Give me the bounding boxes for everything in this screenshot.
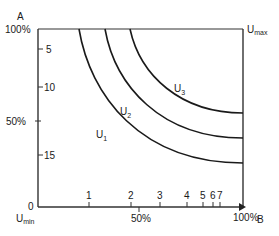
x-tick-label-7: 7 — [217, 190, 223, 201]
x-tick-label-4: 4 — [184, 190, 190, 201]
x-mid-label: 50% — [131, 213, 151, 224]
u1-label: U1 — [96, 129, 107, 142]
curve-u1 — [79, 29, 243, 163]
x-tick-label-6: 6 — [210, 190, 216, 201]
y-tick-label-5: 5 — [46, 44, 52, 55]
y-zero-label: 0 — [28, 201, 34, 212]
x-axis-label: B — [257, 214, 264, 225]
x-right-label: 100% — [233, 212, 259, 223]
curve-u3 — [130, 29, 243, 113]
indifference-diagram: A 100% 5 10 50% 15 0 1 2 3 4 5 6 7 50% 1… — [0, 0, 279, 236]
y-axis-label: A — [17, 11, 24, 22]
u-min-label: Umin — [16, 213, 35, 225]
x-tick-label-3: 3 — [157, 190, 163, 201]
u-max-label: Umax — [247, 24, 268, 36]
y-mid-label: 50% — [6, 116, 26, 127]
x-tick-label-5: 5 — [200, 190, 206, 201]
x-tick-label-1: 1 — [86, 190, 92, 201]
y-top-label: 100% — [5, 24, 31, 35]
y-tick-label-15: 15 — [44, 150, 56, 161]
x-tick-label-2: 2 — [128, 190, 134, 201]
y-tick-label-10: 10 — [44, 82, 56, 93]
